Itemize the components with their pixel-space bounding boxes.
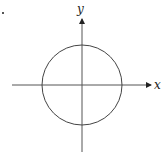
- y-axis-label: y: [77, 3, 84, 15]
- stray-mark: [2, 12, 4, 14]
- diagram-canvas: [0, 0, 167, 159]
- coordinate-diagram: y x: [0, 0, 167, 159]
- x-axis-label: x: [154, 79, 161, 91]
